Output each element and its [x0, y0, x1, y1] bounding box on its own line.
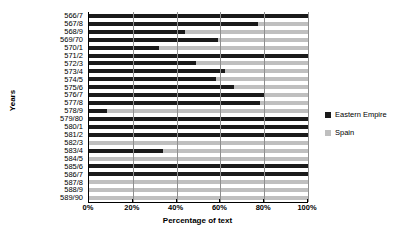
bar-row — [89, 147, 308, 155]
bar-row — [89, 52, 308, 60]
gridline — [220, 12, 221, 202]
bar-segment-spain — [107, 109, 308, 113]
bar-row — [89, 67, 308, 75]
stacked-bar — [89, 61, 308, 65]
stacked-bar — [89, 196, 308, 200]
bar-segment-eastern-empire — [89, 69, 225, 73]
x-axis-title: Percentage of text — [88, 216, 307, 225]
bar-segment-spain — [89, 196, 308, 200]
y-axis-tick-label: 589/90 — [14, 194, 86, 202]
bar-row — [89, 20, 308, 28]
bar-row — [89, 44, 308, 52]
bar-segment-eastern-empire — [89, 77, 216, 81]
bar-row — [89, 28, 308, 36]
bar-segment-eastern-empire — [89, 38, 218, 42]
stacked-bar-chart: Years 566/7567/8568/9569/70570/1571/2572… — [0, 0, 416, 250]
gridline — [308, 12, 309, 202]
legend-swatch-icon — [325, 112, 331, 118]
bar-segment-spain — [89, 188, 308, 192]
stacked-bar — [89, 38, 308, 42]
bar-segment-eastern-empire — [89, 101, 260, 105]
bar-row — [89, 178, 308, 186]
bar-segment-eastern-empire — [89, 46, 159, 50]
bar-segment-eastern-empire — [89, 125, 308, 129]
stacked-bar — [89, 117, 308, 121]
stacked-bar — [89, 46, 308, 50]
stacked-bar — [89, 125, 308, 129]
gridline — [264, 12, 265, 202]
bar-segment-eastern-empire — [89, 172, 308, 176]
bar-segment-spain — [159, 46, 308, 50]
gridline — [133, 12, 134, 202]
stacked-bar — [89, 54, 308, 58]
bar-segment-eastern-empire — [89, 117, 308, 121]
bar-segment-spain — [163, 149, 308, 153]
legend-swatch-icon — [325, 130, 331, 136]
x-axis-tick-label: 80% — [256, 203, 271, 212]
bar-row — [89, 170, 308, 178]
legend-label: Spain — [335, 128, 354, 137]
legend-item: Eastern Empire — [325, 110, 415, 119]
bar-row — [89, 91, 308, 99]
gridline — [177, 12, 178, 202]
stacked-bar — [89, 69, 308, 73]
bar-row — [89, 12, 308, 20]
bar-row — [89, 107, 308, 115]
bar-row — [89, 155, 308, 163]
bar-row — [89, 139, 308, 147]
bar-row — [89, 123, 308, 131]
bar-segment-spain — [216, 77, 308, 81]
bar-segment-eastern-empire — [89, 22, 258, 26]
bar-segment-eastern-empire — [89, 149, 163, 153]
bar-segment-eastern-empire — [89, 54, 308, 58]
bar-segment-spain — [89, 157, 308, 161]
x-axis-tick-label: 20% — [124, 203, 139, 212]
stacked-bar — [89, 149, 308, 153]
stacked-bar — [89, 14, 308, 18]
x-axis-tick-label: 60% — [212, 203, 227, 212]
bar-row — [89, 83, 308, 91]
bar-segment-eastern-empire — [89, 85, 234, 89]
bar-segment-spain — [260, 101, 308, 105]
stacked-bar — [89, 164, 308, 168]
bar-row — [89, 131, 308, 139]
bar-row — [89, 36, 308, 44]
bar-row — [89, 99, 308, 107]
bar-segment-spain — [264, 93, 308, 97]
bar-row — [89, 75, 308, 83]
bar-segment-spain — [89, 141, 308, 145]
stacked-bar — [89, 22, 308, 26]
bar-row — [89, 60, 308, 68]
stacked-bar — [89, 188, 308, 192]
bar-segment-eastern-empire — [89, 30, 185, 34]
stacked-bar — [89, 180, 308, 184]
stacked-bar — [89, 93, 308, 97]
bar-row — [89, 163, 308, 171]
x-axis-tick-label: 100% — [297, 203, 316, 212]
bar-segment-spain — [218, 38, 308, 42]
stacked-bar — [89, 109, 308, 113]
x-axis-tick-label: 40% — [168, 203, 183, 212]
bar-segment-spain — [225, 69, 308, 73]
bar-segment-spain — [196, 61, 308, 65]
bar-rows — [89, 12, 308, 202]
bar-row — [89, 186, 308, 194]
bar-row — [89, 194, 308, 202]
bar-row — [89, 115, 308, 123]
bar-segment-eastern-empire — [89, 164, 308, 168]
plot-area — [88, 12, 308, 203]
stacked-bar — [89, 141, 308, 145]
stacked-bar — [89, 172, 308, 176]
bar-segment-eastern-empire — [89, 14, 308, 18]
bar-segment-spain — [234, 85, 308, 89]
x-axis-tick-labels: 0%20%40%60%80%100% — [88, 203, 307, 215]
bar-segment-spain — [89, 180, 308, 184]
bar-segment-spain — [185, 30, 308, 34]
stacked-bar — [89, 77, 308, 81]
stacked-bar — [89, 101, 308, 105]
chart-legend: Eastern EmpireSpain — [325, 110, 415, 146]
legend-label: Eastern Empire — [335, 110, 387, 119]
bar-segment-eastern-empire — [89, 133, 308, 137]
stacked-bar — [89, 30, 308, 34]
stacked-bar — [89, 157, 308, 161]
